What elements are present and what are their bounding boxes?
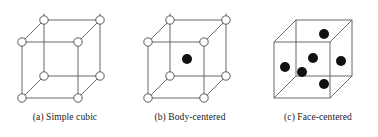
caption-simple-cubic: (a) Simple cubic bbox=[2, 112, 128, 123]
corner-atom-front-top-right bbox=[200, 38, 208, 46]
panel-simple-cubic: (a) Simple cubic bbox=[0, 0, 126, 137]
face-center-atom-right bbox=[336, 56, 346, 66]
face-centered-lattice bbox=[252, 12, 378, 107]
panel-body-centered: (b) Body-centered bbox=[126, 0, 252, 137]
body-center-atom bbox=[182, 54, 192, 64]
corner-atom-front-bottom-left bbox=[144, 94, 152, 102]
corner-atom-front-top-right bbox=[74, 38, 82, 46]
connector-edge-tl bbox=[22, 20, 44, 42]
connector-edge-bl bbox=[274, 76, 296, 98]
face-center-atom-left bbox=[280, 62, 290, 72]
corner-atom-back-bottom-right bbox=[96, 72, 104, 80]
face-center-atom-back bbox=[308, 53, 318, 63]
corner-atom-back-bottom-right bbox=[222, 72, 230, 80]
corner-atom-front-bottom-left bbox=[18, 94, 26, 102]
connector-edge-tl bbox=[148, 20, 170, 42]
connector-edge-tr bbox=[204, 20, 226, 42]
simple-cubic-lattice bbox=[0, 12, 126, 107]
corner-atom-front-bottom-right bbox=[200, 94, 208, 102]
connector-edge-br bbox=[330, 76, 352, 98]
connector-edge-bl bbox=[22, 76, 44, 98]
face-center-atom-front bbox=[297, 67, 307, 77]
corner-atom-front-top-left bbox=[144, 38, 152, 46]
connector-edge-tr bbox=[78, 20, 100, 42]
connector-edge-br bbox=[78, 76, 100, 98]
corner-atom-tick-marks bbox=[44, 14, 100, 16]
corner-atom-front-bottom-right bbox=[74, 94, 82, 102]
corner-atom-back-top-left bbox=[166, 16, 174, 24]
face-center-atom-top bbox=[319, 29, 329, 39]
face-center-atom-bottom bbox=[319, 79, 329, 89]
corner-atom-back-top-right bbox=[96, 16, 104, 24]
crystal-lattice-figure: (a) Simple cubic bbox=[0, 0, 378, 137]
corner-atom-tick-marks bbox=[170, 14, 226, 16]
connector-edge-bl bbox=[148, 76, 170, 98]
corner-atom-back-top-left bbox=[40, 16, 48, 24]
panel-face-centered: (c) Face-centered bbox=[252, 0, 378, 137]
corner-atom-back-top-right bbox=[222, 16, 230, 24]
corner-atom-back-bottom-left bbox=[40, 72, 48, 80]
connector-edge-tr bbox=[330, 20, 352, 42]
body-centered-lattice bbox=[126, 12, 252, 107]
corner-atom-back-bottom-left bbox=[166, 72, 174, 80]
connector-edge-br bbox=[204, 76, 226, 98]
caption-face-centered: (c) Face-centered bbox=[255, 112, 378, 123]
corner-atom-front-top-left bbox=[18, 38, 26, 46]
caption-body-centered: (b) Body-centered bbox=[127, 112, 253, 123]
connector-edge-tl bbox=[274, 20, 296, 42]
